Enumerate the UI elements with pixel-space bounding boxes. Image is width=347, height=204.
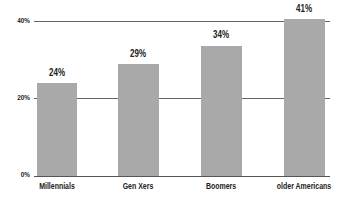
bar-gen-xers: [118, 64, 159, 176]
y-tick-40: 40%: [6, 16, 30, 25]
x-axis-baseline: [34, 176, 330, 177]
y-tick-20: 20%: [6, 93, 30, 102]
x-label-boomers: Boomers: [188, 181, 254, 191]
value-label-boomers: 34%: [201, 29, 241, 40]
x-label-gen-xers: Gen Xers: [105, 181, 171, 191]
bar-millennials: [37, 83, 77, 176]
bar-boomers: [201, 46, 242, 176]
bar-older-americans: [284, 19, 325, 176]
value-label-gen-xers: 29%: [118, 48, 158, 59]
y-tick-0: 0%: [6, 170, 30, 179]
value-label-millennials: 24%: [37, 67, 77, 78]
value-label-older-americans: 41%: [284, 3, 324, 14]
bar-chart: 40% 20% 0% 24% 29% 34% 41% Millennials G…: [0, 0, 347, 204]
x-label-older-americans: older Americans: [271, 181, 337, 191]
x-label-millennials: Millennials: [24, 181, 90, 191]
